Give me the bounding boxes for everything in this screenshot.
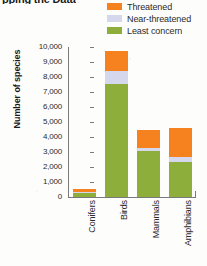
bar-segment-threatened bbox=[169, 128, 192, 157]
y-axis-tick-labels: 10,0009,0008,0007,0006,0005,0004,0003,00… bbox=[26, 40, 62, 202]
y-tick-label: 3,000 bbox=[26, 148, 62, 156]
bar-segment-threatened bbox=[105, 51, 128, 71]
y-tick-label: 0 bbox=[26, 193, 62, 201]
bar-segment-threatened bbox=[137, 130, 160, 149]
species-chart: pping the Data Threatened Near-threatene… bbox=[0, 0, 207, 266]
y-tick-label: 7,000 bbox=[26, 88, 62, 96]
bar-segment-least-concern bbox=[105, 84, 128, 197]
plot-area: Number of species 10,0009,0008,0007,0006… bbox=[0, 0, 207, 266]
bar-amphibians[interactable] bbox=[169, 128, 192, 197]
y-tick-label: 5,000 bbox=[26, 118, 62, 126]
y-tick-label: 2,000 bbox=[26, 163, 62, 171]
y-tick-label: 10,000 bbox=[26, 43, 62, 51]
bar-segment-least-concern bbox=[137, 151, 160, 197]
bar-segment-near-threatened bbox=[105, 71, 128, 84]
bar-segment-least-concern bbox=[169, 162, 192, 197]
y-tick-label: 9,000 bbox=[26, 58, 62, 66]
y-tick-label: 1,000 bbox=[26, 178, 62, 186]
y-tick-label: 6,000 bbox=[26, 103, 62, 111]
x-tick-label-birds: Birds bbox=[120, 200, 129, 220]
x-axis-tick-labels: ConifersBirdsMammalsAmphibians bbox=[68, 200, 196, 264]
x-tick-label-conifers: Conifers bbox=[88, 200, 97, 233]
bar-mammals[interactable] bbox=[137, 130, 160, 198]
bar-conifers[interactable] bbox=[73, 189, 96, 197]
x-tick-label-amphibians: Amphibians bbox=[184, 200, 193, 246]
y-axis-title: Number of species bbox=[12, 41, 22, 137]
bar-segment-least-concern bbox=[73, 193, 96, 198]
y-tick-label: 4,000 bbox=[26, 133, 62, 141]
x-tick-label-mammals: Mammals bbox=[152, 200, 161, 238]
x-axis-line bbox=[68, 197, 196, 198]
y-tick-label: 8,000 bbox=[26, 73, 62, 81]
bar-series-group bbox=[68, 47, 196, 197]
bar-birds[interactable] bbox=[105, 51, 128, 197]
